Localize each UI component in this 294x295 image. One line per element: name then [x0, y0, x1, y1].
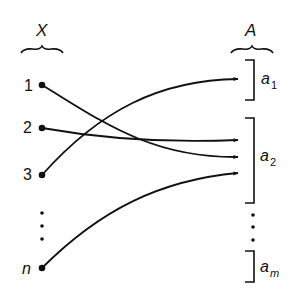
codomain-ellipsis-dot: [251, 213, 255, 217]
element-2-label: 2: [23, 119, 32, 136]
block-a2-subscript: 2: [270, 156, 276, 168]
domain-ellipsis-dot: [40, 224, 44, 228]
domain-ellipsis-dot: [40, 211, 44, 215]
element-3-label: 3: [23, 166, 32, 183]
block-am-subscript: m: [270, 267, 279, 279]
element-1-label: 1: [24, 77, 33, 94]
codomain-ellipsis-dot: [251, 238, 255, 242]
set-a-brace: [231, 46, 273, 53]
block-am-bracket: [245, 251, 254, 282]
codomain-ellipsis-dot: [251, 225, 255, 229]
arrow-2-to-a2: [42, 128, 238, 141]
arrow-n-to-a2: [42, 173, 238, 268]
set-a-label: A: [244, 21, 256, 40]
set-x-label: X: [35, 21, 48, 40]
block-a1-bracket: [245, 60, 254, 100]
block-a1-name: a: [261, 70, 270, 87]
block-a2-name: a: [260, 147, 269, 164]
domain-ellipsis-dot: [40, 237, 44, 241]
set-x-brace: [21, 46, 63, 53]
block-am-name: a: [260, 258, 269, 275]
element-n-label: n: [22, 260, 31, 277]
arrow-3-to-a1: [42, 79, 238, 175]
block-a2-bracket: [245, 118, 254, 203]
function-mapping-diagram: X A 1 2 3 n a 1 a 2 a m: [0, 0, 294, 295]
block-a1-subscript: 1: [271, 79, 277, 91]
